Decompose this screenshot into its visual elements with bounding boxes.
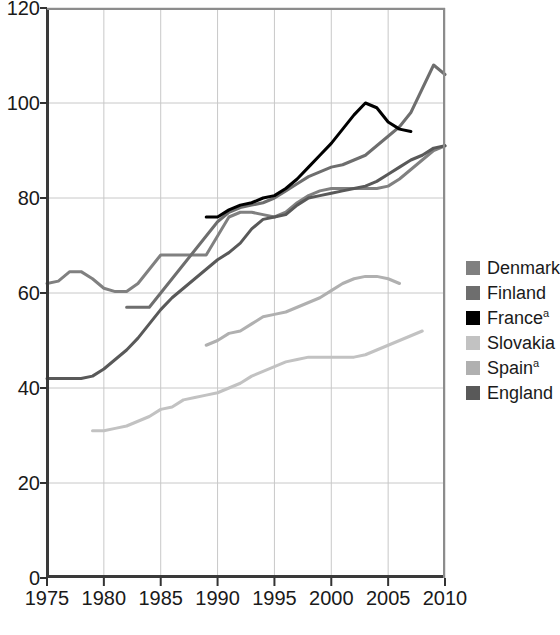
x-axis-tick-labels: 19751980198519901995200020052010 <box>47 588 445 622</box>
y-axis-tick-20: 20 <box>18 473 40 493</box>
legend-label-finland: Finland <box>487 284 546 302</box>
x-axis-tick-2000: 2000 <box>309 588 354 608</box>
legend-label-slovakia: Slovakia <box>487 334 555 352</box>
y-axis-tick-0: 0 <box>29 568 40 588</box>
y-axis-tick-40: 40 <box>18 378 40 398</box>
legend-item-denmark[interactable]: Denmark <box>466 255 556 280</box>
x-axis-tick-2005: 2005 <box>366 588 411 608</box>
legend-item-finland[interactable]: Finland <box>466 280 556 305</box>
legend-superscript: a <box>533 357 539 369</box>
y-axis-tick-labels: 020406080100120 <box>0 8 40 578</box>
legend-swatch-denmark <box>466 261 480 275</box>
legend-label-england: England <box>487 384 553 402</box>
x-axis-tick-1985: 1985 <box>138 588 183 608</box>
legend-item-spain[interactable]: Spaina <box>466 355 556 380</box>
legend-item-france[interactable]: Francea <box>466 305 556 330</box>
legend-label-france: Francea <box>487 308 549 327</box>
legend-item-england[interactable]: England <box>466 380 556 405</box>
legend-swatch-spain <box>466 361 480 375</box>
plot-area <box>47 8 445 578</box>
legend-swatch-england <box>466 386 480 400</box>
y-axis-tick-60: 60 <box>18 283 40 303</box>
y-axis-tick-120: 120 <box>7 0 40 18</box>
x-axis-tick-1975: 1975 <box>25 588 70 608</box>
x-axis-tick-1990: 1990 <box>195 588 240 608</box>
x-axis-tick-1980: 1980 <box>82 588 127 608</box>
legend-swatch-finland <box>466 286 480 300</box>
y-axis-tick-80: 80 <box>18 188 40 208</box>
legend-superscript: a <box>543 307 549 319</box>
x-axis-tick-1995: 1995 <box>252 588 297 608</box>
y-axis-tick-100: 100 <box>7 93 40 113</box>
legend-swatch-france <box>466 311 480 325</box>
legend-item-slovakia[interactable]: Slovakia <box>466 330 556 355</box>
x-axis-tick-2010: 2010 <box>423 588 468 608</box>
legend-swatch-slovakia <box>466 336 480 350</box>
plot-svg <box>47 8 445 578</box>
chart-legend: DenmarkFinlandFranceaSlovakiaSpainaEngla… <box>466 255 556 405</box>
legend-label-denmark: Denmark <box>487 259 560 277</box>
legend-label-spain: Spaina <box>487 358 539 377</box>
